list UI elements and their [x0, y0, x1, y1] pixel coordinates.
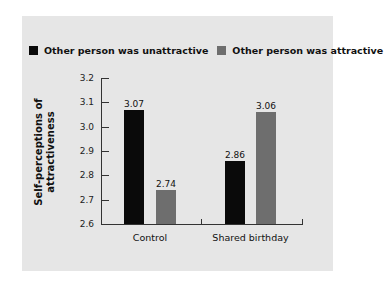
- x-axis: [101, 224, 303, 225]
- legend-swatch-grey: [217, 46, 226, 55]
- bar-attractive: [156, 190, 176, 224]
- legend-label: Other person was attractive: [232, 45, 383, 56]
- y-tick-label: 3.0: [64, 122, 94, 132]
- y-tick-label: 2.8: [64, 170, 94, 180]
- bar-value-label: 3.07: [117, 99, 151, 109]
- y-axis-title-line: Self-perceptions of: [33, 87, 45, 217]
- y-tick: [101, 151, 109, 152]
- y-tick-label: 3.1: [64, 97, 94, 107]
- y-tick-label: 3.2: [64, 73, 94, 83]
- bar-value-label: 2.86: [218, 150, 252, 160]
- x-category-label: Control: [95, 232, 205, 243]
- x-axis-mid-tick: [201, 219, 202, 224]
- x-axis-end-tick: [302, 219, 303, 224]
- y-tick-label: 2.7: [64, 195, 94, 205]
- legend-item-unattractive: Other person was unattractive: [29, 45, 208, 56]
- bar-value-label: 3.06: [249, 101, 283, 111]
- y-tick-label: 2.9: [64, 146, 94, 156]
- bar-value-label: 2.74: [149, 179, 183, 189]
- y-tick: [101, 200, 109, 201]
- legend-swatch-black: [29, 46, 38, 55]
- bar-attractive: [256, 112, 276, 224]
- y-axis-title: Self-perceptions of attractiveness: [33, 87, 57, 217]
- y-axis-title-line: attractiveness: [45, 87, 57, 217]
- y-tick: [101, 175, 109, 176]
- y-tick: [101, 102, 109, 103]
- y-tick: [101, 78, 109, 79]
- legend-item-attractive: Other person was attractive: [217, 45, 383, 56]
- y-tick-label: 2.6: [64, 219, 94, 229]
- legend-label: Other person was unattractive: [44, 45, 208, 56]
- bar-unattractive: [225, 161, 245, 224]
- x-category-label: Shared birthday: [196, 232, 306, 243]
- legend: Other person was unattractive Other pers…: [29, 43, 388, 57]
- bar-unattractive: [124, 110, 144, 224]
- y-tick: [101, 127, 109, 128]
